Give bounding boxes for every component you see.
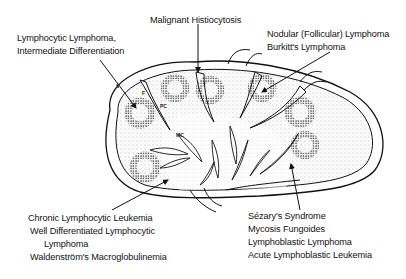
label-sinus: S <box>116 83 119 89</box>
annotation-bottom-right: Sézary's Syndrome Mycosis Fungoides Lymp… <box>248 210 372 262</box>
label-medullary-cords: MC <box>176 132 184 138</box>
annotation-top-left: Lymphocytic Lymphoma, Intermediate Diffe… <box>17 32 124 58</box>
label-paracortex: PC <box>160 103 167 109</box>
annotation-bottom-left: Chronic Lymphocytic Leukemia Well Differ… <box>28 212 167 264</box>
arrow-chronic-lymphocytic <box>112 180 168 210</box>
label-follicle: F <box>142 90 145 96</box>
annotation-top-center: Malignant Histiocytosis <box>150 14 241 27</box>
annotation-top-right: Nodular (Follicular) Lymphoma Burkitt's … <box>267 28 389 54</box>
